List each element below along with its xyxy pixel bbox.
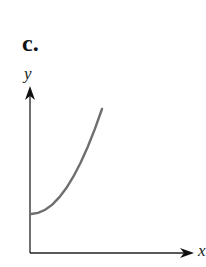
data-curve [31,109,102,214]
chart-plot [0,0,206,267]
